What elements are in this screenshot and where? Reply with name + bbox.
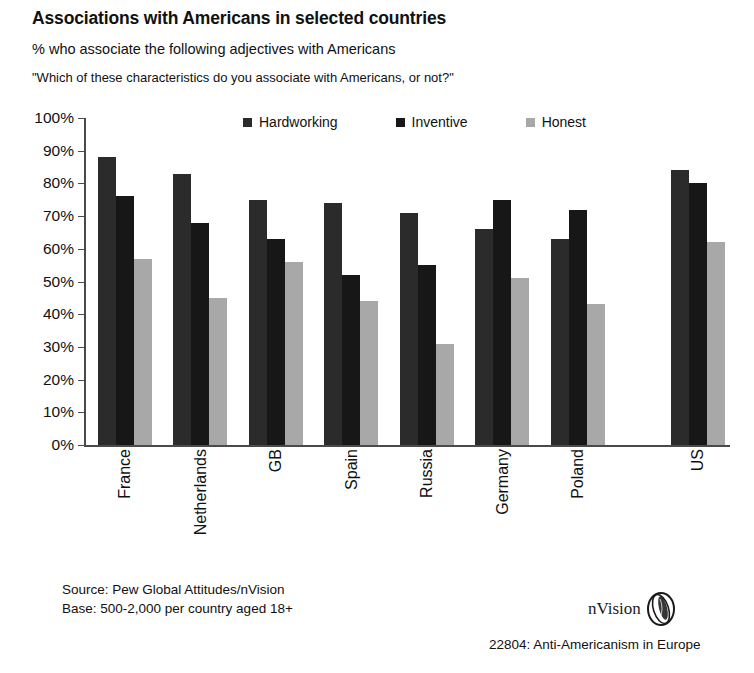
nvision-logo: nVision: [588, 592, 677, 626]
y-tick: [78, 216, 84, 217]
brand-name: nVision: [588, 599, 641, 619]
page-title: Associations with Americans in selected …: [32, 8, 446, 29]
x-axis-label: Poland: [569, 449, 587, 499]
x-axis-label: Russia: [418, 449, 436, 498]
bar: [671, 170, 689, 445]
y-tick-label: 70%: [43, 207, 74, 225]
y-tick: [78, 380, 84, 381]
source-line-1: Source: Pew Global Attitudes/nVision: [62, 580, 293, 599]
y-tick-label: 30%: [43, 338, 74, 356]
y-tick: [78, 314, 84, 315]
bar: [249, 200, 267, 445]
bar: [587, 304, 605, 445]
y-tick-label: 0%: [52, 436, 74, 454]
bar: [418, 265, 436, 445]
y-tick-label: 100%: [34, 109, 74, 127]
source-line-2: Base: 500-2,000 per country aged 18+: [62, 599, 293, 618]
x-axis-label: US: [689, 449, 707, 471]
x-axis-label: Spain: [343, 449, 361, 490]
bar: [285, 262, 303, 445]
bar: [116, 196, 134, 445]
x-axis-label: Germany: [494, 449, 512, 515]
bar: [360, 301, 378, 445]
bar: [569, 210, 587, 445]
y-tick-label: 20%: [43, 371, 74, 389]
y-tick: [78, 249, 84, 250]
bar: [689, 183, 707, 445]
plot-area: 0%10%20%30%40%50%60%70%80%90%100%: [84, 118, 730, 445]
bar: [436, 344, 454, 445]
y-tick-label: 60%: [43, 240, 74, 258]
bar-group: [400, 118, 454, 445]
chart-subtitle: % who associate the following adjectives…: [32, 41, 395, 57]
bar: [98, 157, 116, 445]
x-axis-label: GB: [267, 449, 285, 472]
bar: [209, 298, 227, 445]
bar: [707, 242, 725, 445]
y-tick: [78, 151, 84, 152]
bar: [324, 203, 342, 445]
y-tick: [78, 282, 84, 283]
y-tick-label: 40%: [43, 305, 74, 323]
source-note: Source: Pew Global Attitudes/nVision Bas…: [62, 580, 293, 618]
chart-page: Associations with Americans in selected …: [0, 0, 754, 673]
bar-groups: [86, 118, 730, 445]
bar-group: [98, 118, 152, 445]
bar-group: [324, 118, 378, 445]
y-tick: [78, 445, 84, 446]
bar: [551, 239, 569, 445]
bar: [191, 223, 209, 445]
bar-group: [475, 118, 529, 445]
bar-group: [249, 118, 303, 445]
bar: [475, 229, 493, 445]
bar: [400, 213, 418, 445]
bar: [493, 200, 511, 445]
nvision-mark-icon: [645, 592, 677, 626]
bar: [134, 259, 152, 445]
bar: [267, 239, 285, 445]
bar: [511, 278, 529, 445]
y-tick: [78, 412, 84, 413]
y-tick: [78, 183, 84, 184]
x-axis-label: France: [116, 449, 134, 499]
y-tick-label: 90%: [43, 142, 74, 160]
y-tick-label: 50%: [43, 273, 74, 291]
bar-group: [551, 118, 605, 445]
bar: [173, 174, 191, 445]
y-tick: [78, 118, 84, 119]
bar-group: [173, 118, 227, 445]
bar-group: [671, 118, 725, 445]
survey-question: "Which of these characteristics do you a…: [32, 70, 454, 85]
footer-code: 22804: Anti-Americanism in Europe: [489, 637, 701, 652]
x-axis-labels: FranceNetherlandsGBSpainRussiaGermanyPol…: [84, 449, 730, 569]
y-tick-label: 80%: [43, 174, 74, 192]
x-axis: [84, 445, 730, 447]
x-axis-label: Netherlands: [192, 449, 210, 535]
bar: [342, 275, 360, 445]
y-tick: [78, 347, 84, 348]
y-tick-label: 10%: [43, 403, 74, 421]
